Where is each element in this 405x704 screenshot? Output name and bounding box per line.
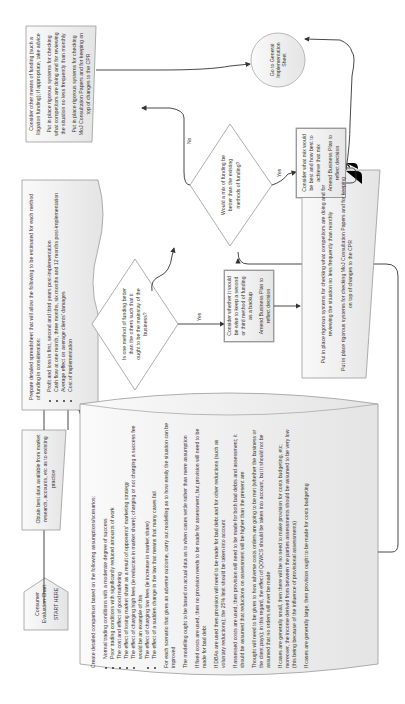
comparison-item: The cost and effect of good marketing [116,422,123,659]
comparison-paragraph: For each scenario that gives an adverse … [163,422,177,668]
decision-one-text: Is one method of funding better than the… [121,288,149,360]
obtain-data-text: Obtain best data available from market r… [35,434,56,524]
systems-line1: Put in place rigorous systems for checki… [320,174,334,374]
obtain-data-node[interactable]: Obtain best data available from market r… [28,434,64,524]
yes-branch-line1: Consider whether it would be wise to kee… [226,275,254,337]
no-branch-box[interactable]: Consider other means of funding (such a … [28,30,92,138]
spreadsheet-intro: Prepare detailed spreadsheet that will a… [28,190,42,400]
yes-branch-line2: Amend Business Plan to reflect decision [258,275,272,337]
comparison-item: The effect of charging high fees (ie red… [130,422,144,659]
comparison-item: Normal trading conditions with a moderat… [102,422,109,659]
decision-one[interactable]: Is one method of funding better than the… [112,288,158,360]
comparison-intro: Create detailed comparison based on the … [90,422,97,668]
spreadsheet-list: Profit and loss in first, second and thi… [46,190,74,400]
end-text: Go to General Implementation Sheet [269,36,287,84]
start-title: Consumer Evaluation Chart [34,580,48,628]
comparison-item: The effect of a sudden change in the law… [151,422,158,659]
comparison-paragraph: If cases are generally small, then there… [277,422,298,668]
start-subtitle: START HERE [53,580,60,628]
decision-two[interactable]: Would a mix of funding be better than th… [212,154,250,216]
comparison-paragraph: If cases are generally large, then provi… [303,422,310,668]
spreadsheet-item: Cost of implementation [67,190,74,392]
spreadsheet-item: Cash flow at one month, three months, si… [53,190,60,392]
comparison-item: The effect of charging low fees (ie incr… [144,422,151,659]
spreadsheet-node[interactable]: Prepare detailed spreadsheet that will a… [22,182,94,408]
no-branch-line3: Put in place rigorous systems for checki… [71,30,92,138]
end-node[interactable]: Go to General Implementation Sheet [254,36,302,84]
spreadsheet-item: Average effect on average clients' damag… [60,190,67,392]
comparison-paragraph: If assessed costs are used, then provisi… [232,422,246,668]
no-branch-line2: Put in place rigorous systems for checki… [46,30,67,138]
yes-branch-box[interactable]: Consider whether it would be wise to kee… [224,270,274,342]
decision-two-text: Would a mix of funding be better than th… [220,154,241,216]
systems-box[interactable]: Put in place rigorous systems for checki… [304,174,370,374]
spreadsheet-item: Profit and loss in first, second and thi… [46,190,53,392]
flowchart-canvas: Consumer Evaluation Chart START HERE Obt… [0,0,405,704]
yes-label: Yes [196,313,202,321]
comparison-item: Poor trading conditions with significant… [109,422,116,659]
start-node[interactable]: Consumer Evaluation Chart START HERE [26,580,68,628]
comparison-node[interactable]: Create detailed comparison based on the … [84,414,374,676]
no-branch-line1: Consider other means of funding (such a … [28,30,42,138]
no-label: No [186,138,192,144]
comparison-paragraph: If fixed costs are used, then no provisi… [194,422,208,668]
comparison-paragraph: Thought will need to be given to how adv… [251,422,272,668]
systems-line2: Put in place rigorous systems for checki… [340,174,354,374]
comparison-paragraph: The modelling ought to be based on actua… [182,422,189,668]
comparison-item: The effect of losing market share as a r… [123,422,130,659]
comparison-paragraph: If DBAs are used then provision will nee… [213,422,227,668]
yes-label-2: Yes [276,169,282,177]
comparison-list: Normal trading conditions with a moderat… [102,422,158,668]
